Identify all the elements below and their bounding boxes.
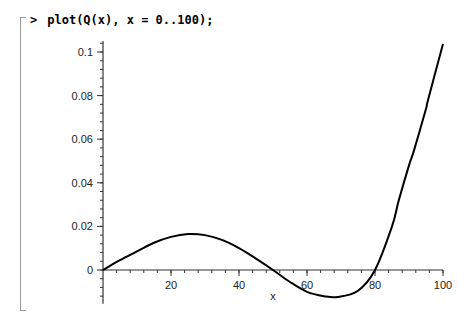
plot-curve <box>103 44 443 297</box>
x-axis-label: x <box>270 290 276 302</box>
x-tick-label: 20 <box>165 279 177 291</box>
x-tick-label: 100 <box>434 279 452 291</box>
y-tick-label: 0.02 <box>72 220 93 232</box>
y-tick-label: 0.04 <box>72 177 93 189</box>
plot-output[interactable]: 2040608010000.020.040.060.080.1 x <box>0 0 472 324</box>
y-tick-label: 0.1 <box>78 46 93 58</box>
plot-axes: 2040608010000.020.040.060.080.1 <box>72 41 453 304</box>
x-tick-label: 40 <box>233 279 245 291</box>
y-tick-label: 0 <box>87 264 93 276</box>
x-tick-label: 80 <box>369 279 381 291</box>
y-tick-label: 0.08 <box>72 90 93 102</box>
y-tick-label: 0.06 <box>72 133 93 145</box>
